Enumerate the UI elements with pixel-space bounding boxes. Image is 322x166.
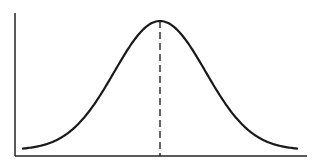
- bell-curve-chart: [0, 0, 322, 166]
- normal-curve: [23, 21, 297, 149]
